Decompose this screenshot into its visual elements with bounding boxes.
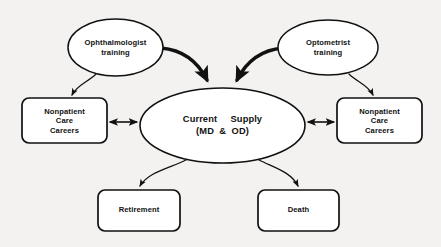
edge-supply-to-retirement [140,160,186,186]
node-optometrist-training[interactable] [278,20,378,75]
node-ophthalmologist-training[interactable] [68,19,163,76]
edge-ophthalmologist-to-supply [161,48,207,80]
node-nonpatient-left[interactable] [22,98,107,143]
edge-optometrist-to-nonpatient-right [349,74,373,95]
diagram-page: Ophthalmologist training Optometrist tra… [0,0,441,247]
edge-ophthalmologist-to-nonpatient-left [72,74,96,95]
node-retirement[interactable] [98,190,180,231]
node-current-supply[interactable] [140,88,305,163]
node-death[interactable] [258,190,339,231]
edge-optometrist-to-supply [237,48,283,80]
flow-diagram-canvas [0,0,441,247]
node-nonpatient-right[interactable] [337,98,422,143]
edge-supply-to-death [259,160,298,186]
